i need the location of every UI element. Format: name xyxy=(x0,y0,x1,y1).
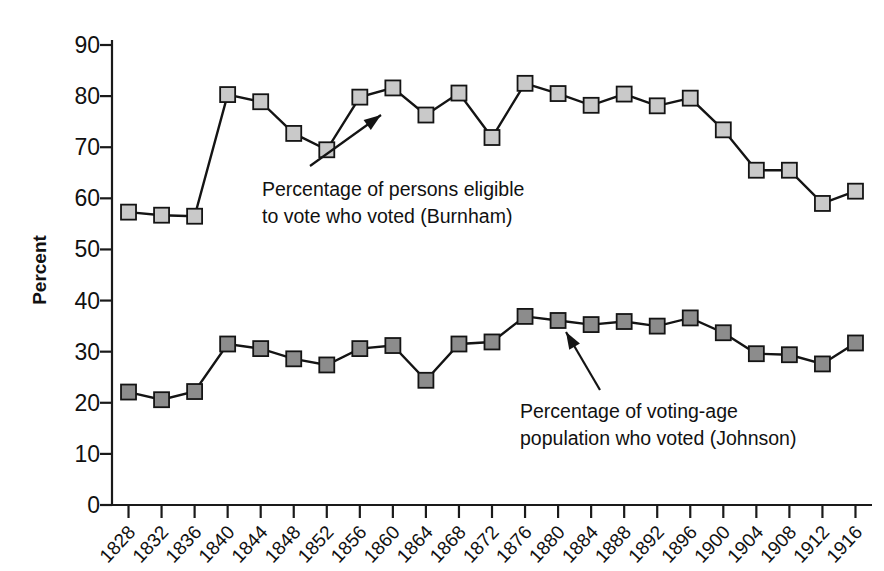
y-axis-title: Percent xyxy=(29,234,50,304)
x-tick-label: 1844 xyxy=(227,521,271,567)
data-point-marker xyxy=(220,337,235,352)
data-point-marker xyxy=(485,130,500,145)
x-axis-tick-labels: 1828183218361840184418481852185618601864… xyxy=(95,521,866,567)
data-point-marker xyxy=(220,87,235,102)
data-point-marker xyxy=(187,209,202,224)
data-point-marker xyxy=(617,314,632,329)
data-point-marker xyxy=(518,76,533,91)
burnham-annotation-arrow-head xyxy=(364,115,381,130)
y-tick-label: 30 xyxy=(74,339,100,365)
y-tick-label: 80 xyxy=(74,83,100,109)
data-point-marker xyxy=(518,309,533,324)
data-point-marker xyxy=(782,163,797,178)
data-point-marker xyxy=(121,385,136,400)
y-tick-label: 50 xyxy=(74,236,100,262)
y-axis-title-label: Percent xyxy=(29,234,50,304)
y-axis-tick-labels: 0102030405060708090 xyxy=(74,32,100,518)
y-tick-label: 20 xyxy=(74,390,100,416)
data-point-marker xyxy=(286,126,301,141)
data-point-marker xyxy=(716,122,731,137)
data-point-marker xyxy=(154,208,169,223)
y-tick-label: 10 xyxy=(74,441,100,467)
data-point-marker xyxy=(253,341,268,356)
x-axis-tick-marks xyxy=(129,505,856,518)
data-point-marker xyxy=(584,317,599,332)
voter-turnout-line-chart: Percent 0102030405060708090 182818321836… xyxy=(0,0,884,571)
johnson-annotation-line: population who voted (Johnson) xyxy=(520,427,796,449)
data-point-marker xyxy=(650,98,665,113)
data-point-marker xyxy=(286,351,301,366)
x-tick-label: 1912 xyxy=(789,521,833,566)
x-tick-label: 1856 xyxy=(327,521,371,566)
data-point-marker xyxy=(782,347,797,362)
data-point-marker xyxy=(485,334,500,349)
x-tick-label: 1860 xyxy=(360,521,404,566)
annotations-layer: Percentage of persons eligibleto vote wh… xyxy=(262,115,796,449)
x-tick-label: 1888 xyxy=(591,521,635,566)
y-tick-label: 40 xyxy=(74,288,100,314)
x-tick-label: 1900 xyxy=(690,521,734,566)
data-point-marker xyxy=(154,392,169,407)
x-tick-label: 1828 xyxy=(95,521,139,566)
data-point-marker xyxy=(352,90,367,105)
x-tick-label: 1916 xyxy=(822,521,866,566)
x-tick-label: 1852 xyxy=(294,521,338,566)
x-tick-label: 1836 xyxy=(161,521,205,566)
y-tick-label: 0 xyxy=(87,492,100,518)
x-tick-label: 1884 xyxy=(558,521,602,567)
data-point-marker xyxy=(617,87,632,102)
data-point-marker xyxy=(848,184,863,199)
data-point-marker xyxy=(385,338,400,353)
x-tick-label: 1892 xyxy=(624,521,668,566)
y-tick-label: 90 xyxy=(74,32,100,58)
y-tick-label: 70 xyxy=(74,134,100,160)
data-point-marker xyxy=(683,91,698,106)
data-point-marker xyxy=(385,80,400,95)
x-tick-label: 1864 xyxy=(393,521,437,567)
x-tick-label: 1840 xyxy=(194,521,238,566)
data-point-marker xyxy=(451,86,466,101)
data-point-marker xyxy=(319,357,334,372)
x-tick-label: 1904 xyxy=(723,521,767,567)
x-tick-label: 1872 xyxy=(459,521,503,566)
data-point-marker xyxy=(683,310,698,325)
data-point-marker xyxy=(749,346,764,361)
x-tick-label: 1880 xyxy=(525,521,569,566)
data-point-marker xyxy=(848,335,863,350)
y-tick-label: 60 xyxy=(74,185,100,211)
burnham-annotation-line: Percentage of persons eligible xyxy=(262,178,524,200)
data-point-marker xyxy=(418,373,433,388)
x-tick-label: 1896 xyxy=(657,521,701,566)
johnson-annotation-line: Percentage of voting-age xyxy=(520,400,738,422)
data-point-marker xyxy=(187,384,202,399)
data-point-marker xyxy=(716,325,731,340)
x-tick-label: 1832 xyxy=(128,521,172,566)
x-tick-label: 1868 xyxy=(426,521,470,566)
x-tick-label: 1876 xyxy=(492,521,536,566)
data-point-marker xyxy=(451,337,466,352)
data-point-marker xyxy=(352,341,367,356)
data-point-marker xyxy=(749,163,764,178)
data-point-marker xyxy=(650,319,665,334)
burnham-annotation-line: to vote who voted (Burnham) xyxy=(262,205,512,227)
data-point-marker xyxy=(584,98,599,113)
x-tick-label: 1908 xyxy=(756,521,800,566)
x-tick-label: 1848 xyxy=(260,521,304,566)
series-line-1 xyxy=(129,316,856,399)
data-point-marker xyxy=(551,86,566,101)
chart-container: Percent 0102030405060708090 182818321836… xyxy=(0,0,884,571)
johnson-annotation-arrow-head xyxy=(566,332,580,350)
series-markers xyxy=(121,76,863,407)
data-point-marker xyxy=(815,356,830,371)
data-point-marker xyxy=(418,108,433,123)
data-point-marker xyxy=(815,196,830,211)
data-point-marker xyxy=(551,313,566,328)
data-point-marker xyxy=(121,205,136,220)
y-axis-tick-marks xyxy=(100,45,112,505)
data-point-marker xyxy=(253,94,268,109)
